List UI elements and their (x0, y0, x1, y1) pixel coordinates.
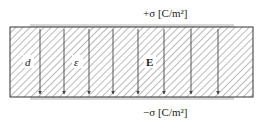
bottom-plate-label: −σ [C/m²] (143, 107, 187, 118)
top-plate-label: +σ [C/m²] (143, 8, 187, 19)
permittivity-label: ε (74, 57, 78, 68)
dielectric-region (10, 27, 253, 97)
capacitor-diagram (0, 0, 264, 126)
separation-label: d (25, 57, 31, 68)
field-label: E (146, 57, 153, 68)
